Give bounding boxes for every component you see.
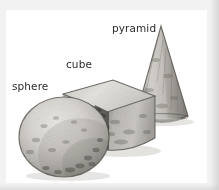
label-pyramid: pyramid [112,22,156,34]
illustration-panel: pyramid cube sphere [6,10,207,183]
figure-frame: pyramid cube sphere [0,0,219,190]
label-sphere: sphere [12,80,48,92]
label-cube: cube [66,58,92,70]
sphere-shape [14,92,120,182]
